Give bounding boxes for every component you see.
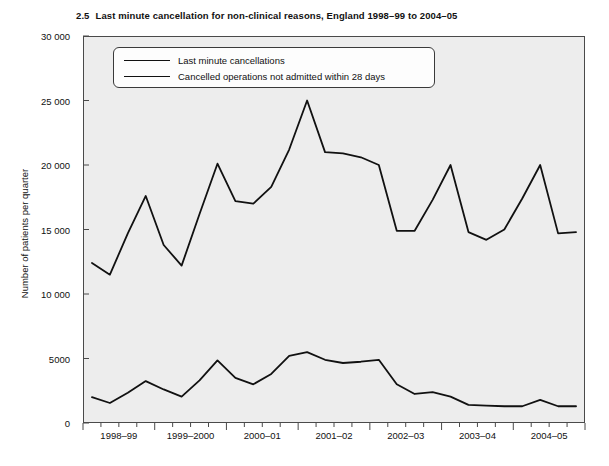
y-tick-label: 5000 (49, 353, 70, 364)
y-tick-label: 20 000 (41, 160, 70, 171)
legend-item-label: Last minute cancellations (178, 55, 285, 66)
chart-svg (83, 36, 585, 423)
x-axis-tick-labels: 1998–991999–20002000–012001–022002–03200… (83, 430, 585, 448)
chart-page: 2.5Last minute cancellation for non-clin… (0, 0, 609, 466)
chart-title-text: Last minute cancellation for non-clinica… (96, 10, 458, 21)
series-lines (92, 101, 576, 407)
legend-item-label: Cancelled operations not admitted within… (178, 71, 385, 82)
legend-item-not-admitted-28-days: Cancelled operations not admitted within… (124, 69, 385, 83)
x-tick-label: 2002–03 (387, 430, 424, 441)
x-tick-label: 1998–99 (100, 430, 137, 441)
y-tick-label: 0 (65, 418, 70, 429)
series-line-0 (92, 101, 576, 275)
y-tick-label: 15 000 (41, 224, 70, 235)
series-line-1 (92, 352, 576, 406)
x-tick-label: 2000–01 (244, 430, 281, 441)
y-axis-tick-labels: 0500010 00015 00020 00025 00030 000 (0, 36, 76, 423)
y-tick-label: 25 000 (41, 95, 70, 106)
chart-title-number: 2.5 (76, 10, 90, 21)
x-tick-label: 2001–02 (316, 430, 353, 441)
chart-legend: Last minute cancellations Cancelled oper… (113, 47, 435, 88)
legend-line-icon (124, 60, 170, 61)
x-tick-label: 2003–04 (459, 430, 496, 441)
legend-line-icon (124, 76, 170, 77)
chart-title: 2.5Last minute cancellation for non-clin… (76, 10, 457, 21)
x-tick-label: 1999–2000 (167, 430, 215, 441)
legend-item-last-minute-cancellations: Last minute cancellations (124, 53, 285, 67)
y-tick-label: 10 000 (41, 289, 70, 300)
y-tick-label: 30 000 (41, 31, 70, 42)
x-axis-ticks (83, 423, 585, 430)
x-tick-label: 2004–05 (531, 430, 568, 441)
plot-container (83, 36, 585, 423)
y-axis-ticks (83, 36, 89, 423)
